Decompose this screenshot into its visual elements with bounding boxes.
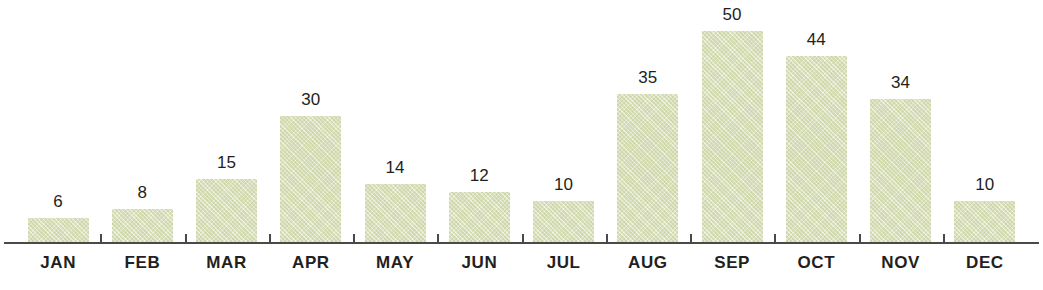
bar-rect[interactable] bbox=[280, 116, 341, 244]
bars-container: 6 8 15 30 14 12 bbox=[16, 0, 1027, 243]
bar-group-oct[interactable]: 44 bbox=[774, 0, 858, 243]
bar-rect[interactable] bbox=[870, 99, 931, 244]
axis-tick bbox=[437, 234, 439, 242]
bar-value-label: 44 bbox=[807, 31, 826, 48]
axis-tick bbox=[353, 234, 355, 242]
x-label-sep: SEP bbox=[690, 252, 774, 282]
bar-value-label: 6 bbox=[53, 193, 63, 210]
x-label-jun: JUN bbox=[437, 252, 521, 282]
bar-group-may[interactable]: 14 bbox=[353, 0, 437, 243]
bar-group-nov[interactable]: 34 bbox=[859, 0, 943, 243]
bar-group-mar[interactable]: 15 bbox=[185, 0, 269, 243]
x-label-may: MAY bbox=[353, 252, 437, 282]
bar-rect[interactable] bbox=[702, 31, 763, 244]
bar-rect[interactable] bbox=[617, 94, 678, 243]
axis-tick bbox=[185, 234, 187, 242]
bar-group-jan[interactable]: 6 bbox=[16, 0, 100, 243]
axis-tick bbox=[690, 234, 692, 242]
bar-value-label: 34 bbox=[891, 74, 910, 91]
axis-tick bbox=[100, 234, 102, 242]
x-label-dec: DEC bbox=[943, 252, 1027, 282]
bar-value-label: 30 bbox=[301, 91, 320, 108]
x-axis-ticks bbox=[16, 234, 1027, 242]
axis-tick bbox=[522, 234, 524, 242]
bar-value-label: 8 bbox=[138, 184, 148, 201]
bar-group-aug[interactable]: 35 bbox=[606, 0, 690, 243]
bar-group-jul[interactable]: 10 bbox=[522, 0, 606, 243]
bar-value-label: 12 bbox=[470, 167, 489, 184]
bar-rect[interactable] bbox=[786, 56, 847, 243]
bar-group-sep[interactable]: 50 bbox=[690, 0, 774, 243]
axis-tick bbox=[774, 234, 776, 242]
axis-tick bbox=[943, 234, 945, 242]
x-label-jan: JAN bbox=[16, 252, 100, 282]
x-label-aug: AUG bbox=[606, 252, 690, 282]
x-axis-labels: JAN FEB MAR APR MAY JUN JUL AUG SEP OCT … bbox=[16, 252, 1027, 282]
bar-group-feb[interactable]: 8 bbox=[100, 0, 184, 243]
x-label-feb: FEB bbox=[100, 252, 184, 282]
plot-area: 6 8 15 30 14 12 bbox=[0, 0, 1043, 243]
bar-value-label: 50 bbox=[722, 6, 741, 23]
bar-group-dec[interactable]: 10 bbox=[943, 0, 1027, 243]
bar-chart: 6 8 15 30 14 12 bbox=[0, 0, 1043, 290]
bar-value-label: 10 bbox=[554, 176, 573, 193]
bar-value-label: 14 bbox=[385, 159, 404, 176]
x-label-apr: APR bbox=[269, 252, 353, 282]
x-label-nov: NOV bbox=[859, 252, 943, 282]
axis-tick bbox=[269, 234, 271, 242]
bar-value-label: 35 bbox=[638, 69, 657, 86]
axis-tick bbox=[606, 234, 608, 242]
x-axis-line bbox=[4, 242, 1039, 244]
x-label-oct: OCT bbox=[774, 252, 858, 282]
axis-tick bbox=[859, 234, 861, 242]
x-label-jul: JUL bbox=[522, 252, 606, 282]
x-label-mar: MAR bbox=[185, 252, 269, 282]
bar-group-jun[interactable]: 12 bbox=[437, 0, 521, 243]
bar-value-label: 15 bbox=[217, 154, 236, 171]
bar-value-label: 10 bbox=[975, 176, 994, 193]
bar-group-apr[interactable]: 30 bbox=[269, 0, 353, 243]
